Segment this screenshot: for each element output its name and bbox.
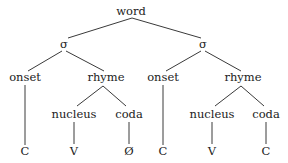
node-rhyme1: rhyme: [87, 72, 124, 84]
node-onset2: onset: [147, 72, 179, 84]
node-c2: C: [159, 146, 168, 158]
syllable-tree-diagram: wordσσonsetrhymeonsetrhymenucleuscodanuc…: [0, 0, 288, 163]
edge-rhyme2-nucleus2: [215, 86, 241, 106]
edge-rhyme1-coda1: [103, 86, 126, 106]
edge-word-s1: [68, 18, 132, 38]
node-nucleus2: nucleus: [189, 109, 234, 121]
edge-s2-rhyme2: [205, 51, 241, 71]
node-v2: V: [208, 146, 216, 158]
node-v1: V: [70, 146, 78, 158]
edge-word-s2: [132, 18, 201, 38]
node-nucleus1: nucleus: [51, 109, 96, 121]
node-word: word: [116, 6, 146, 18]
node-c1: C: [21, 146, 30, 158]
node-coda1: coda: [115, 109, 143, 121]
edge-s1-onset1: [28, 51, 62, 71]
node-s2: σ: [199, 39, 207, 51]
edge-s2-onset2: [166, 51, 201, 71]
edge-rhyme1-nucleus1: [77, 86, 103, 106]
node-s1: σ: [60, 39, 68, 51]
node-rhyme2: rhyme: [224, 72, 261, 84]
edge-rhyme2-coda2: [241, 86, 264, 106]
edge-s1-rhyme1: [66, 51, 104, 71]
node-onset1: onset: [9, 72, 41, 84]
node-c3: C: [262, 146, 271, 158]
node-coda2: coda: [252, 109, 280, 121]
node-null1: Ø: [124, 146, 133, 158]
